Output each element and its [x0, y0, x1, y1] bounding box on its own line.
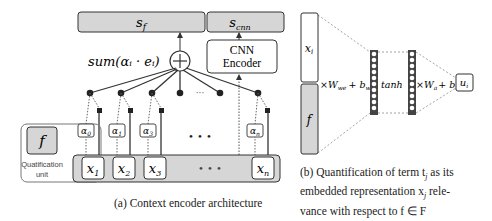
- transform-1-label: ×Wwe+ bwe: [320, 79, 375, 91]
- caption-b: (b) Quantification of term tj as its emb…: [300, 165, 485, 218]
- encoder-label: Encoder: [223, 57, 261, 69]
- figure-b: xi f ×Wwe+ bwe tanh ×W: [301, 13, 473, 154]
- cnn-label: CNN: [230, 44, 255, 56]
- quantification-label: Quatification: [21, 160, 63, 169]
- tanh-label: tanh: [381, 79, 403, 90]
- ellipsis-top: ···: [196, 88, 205, 98]
- alpha-row: α0 α1 α3 αn • • •: [78, 124, 263, 142]
- caption-a: (a) Context encoder architecture: [114, 196, 262, 210]
- hidden-layer-2: [408, 50, 416, 115]
- hidden-layer-1: [370, 50, 378, 115]
- figure-a: sf scnn sum(αᵢ · eᵢ) CNN Encoder: [21, 12, 284, 182]
- ellipsis-alpha: • • •: [188, 131, 212, 142]
- ellipsis-inputs: • • •: [198, 163, 222, 174]
- transform-2-label: ×Wa+ ba: [416, 79, 459, 91]
- unit-label: unit: [36, 170, 49, 179]
- sum-formula-label: sum(αᵢ · eᵢ): [88, 54, 160, 69]
